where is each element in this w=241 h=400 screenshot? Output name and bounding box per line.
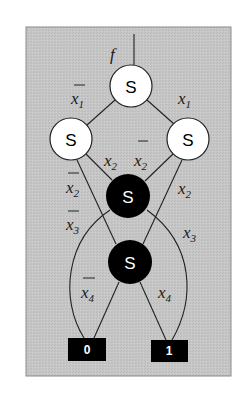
node-top-label: S bbox=[125, 78, 136, 97]
node-mid2-label: S bbox=[124, 254, 135, 273]
node-left-label: S bbox=[65, 131, 76, 150]
node-right: S bbox=[167, 118, 209, 160]
node-mid1: S bbox=[106, 174, 150, 218]
node-mid2: S bbox=[108, 240, 152, 284]
terminal-zero-label: 0 bbox=[84, 343, 91, 357]
switch-network-diagram: f S S S S S 0 1 x1 x1 x2 x2 bbox=[0, 0, 241, 400]
node-mid1-label: S bbox=[122, 188, 133, 207]
terminal-zero: 0 bbox=[68, 338, 106, 361]
terminal-one: 1 bbox=[151, 340, 188, 362]
node-right-label: S bbox=[182, 131, 193, 150]
terminal-one-label: 1 bbox=[166, 344, 173, 358]
node-left: S bbox=[50, 118, 92, 160]
node-top: S bbox=[110, 65, 152, 107]
